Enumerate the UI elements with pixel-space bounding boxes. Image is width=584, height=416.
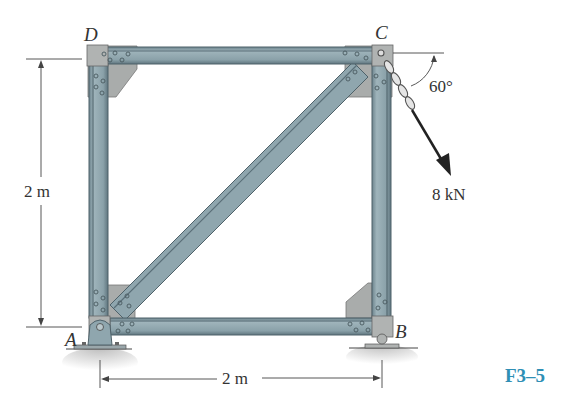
load-angle-label: 60° [429, 77, 453, 96]
bottom-member [110, 318, 375, 335]
diagonal-member [110, 62, 368, 320]
truss-diagram: D C A B 2 m 2 m 8 kN 60° [0, 0, 584, 416]
left-member [89, 64, 108, 318]
node-label-c: C [375, 22, 388, 43]
width-dimension-label: 2 m [222, 369, 248, 388]
node-label-b: B [395, 321, 407, 342]
load-magnitude-label: 8 kN [432, 185, 466, 204]
height-dimension-label: 2 m [24, 182, 50, 201]
load-arrow [412, 110, 451, 176]
right-member [372, 64, 391, 318]
node-label-a: A [63, 329, 77, 350]
node-label-d: D [83, 24, 98, 45]
figure-label: F3–5 [505, 365, 545, 386]
top-member [95, 47, 375, 64]
